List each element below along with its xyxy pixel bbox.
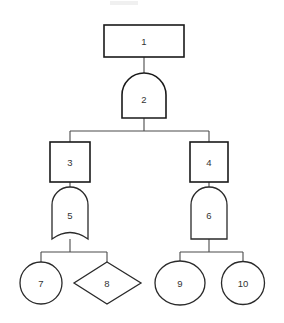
node-8-shape[interactable]	[74, 262, 141, 304]
node-7-shape[interactable]	[20, 262, 62, 304]
node-9-shape[interactable]	[155, 261, 205, 305]
node-4[interactable]: 4	[190, 142, 228, 182]
node-4-shape[interactable]	[190, 142, 228, 182]
node-8[interactable]: 8	[74, 262, 141, 304]
node-5[interactable]: 5	[52, 187, 88, 239]
node-2-shape[interactable]	[122, 73, 166, 118]
node-layer: 1 2 3 4 5	[20, 25, 265, 305]
node-1[interactable]: 1	[104, 25, 184, 57]
node-1-shape[interactable]	[104, 25, 184, 57]
node-5-shape[interactable]	[52, 187, 88, 239]
node-3[interactable]: 3	[50, 142, 90, 182]
diagram-canvas: 1 2 3 4 5	[0, 0, 284, 323]
node-9[interactable]: 9	[155, 261, 205, 305]
node-3-shape[interactable]	[50, 142, 90, 182]
node-2[interactable]: 2	[122, 73, 166, 118]
node-6-shape[interactable]	[191, 187, 227, 239]
node-10[interactable]: 10	[222, 262, 265, 305]
node-10-shape[interactable]	[222, 262, 265, 305]
node-tree-diagram: 1 2 3 4 5	[0, 0, 284, 323]
top-edge-artifact	[110, 1, 138, 5]
node-7[interactable]: 7	[20, 262, 62, 304]
node-6[interactable]: 6	[191, 187, 227, 239]
